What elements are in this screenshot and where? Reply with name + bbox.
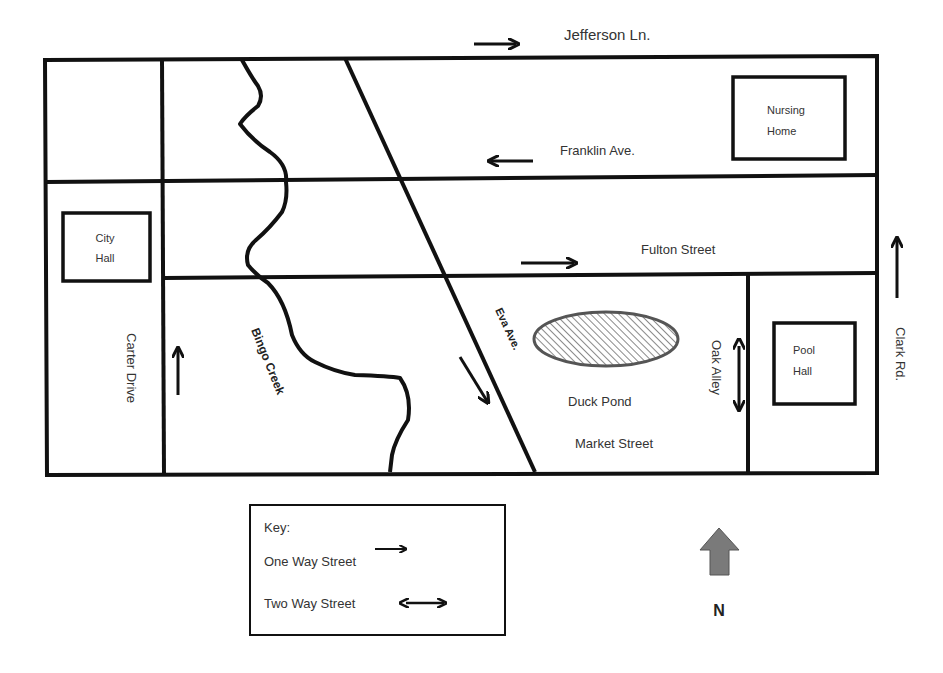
nursing-home-label-1: Nursing: [767, 104, 805, 116]
fulton-street-label: Fulton Street: [641, 242, 716, 257]
nursing-home-label-2: Home: [767, 125, 796, 137]
pool-hall-label-2: Hall: [793, 365, 812, 377]
fulton-street-line: [164, 273, 877, 278]
bingo-creek: [240, 60, 409, 472]
eva-arrow-southeast: [460, 357, 487, 401]
franklin-ave-line: [46, 175, 877, 182]
key-one-way-label: One Way Street: [264, 554, 356, 569]
key-two-way-label: Two Way Street: [264, 596, 356, 611]
city-hall-label-2: Hall: [96, 252, 115, 264]
duck-pond-label: Duck Pond: [568, 394, 632, 409]
city-hall-building: [63, 213, 150, 281]
clark-rd-label: Clark Rd.: [893, 327, 908, 381]
pool-hall-label-1: Pool: [793, 344, 815, 356]
bingo-creek-label: Bingo Creek: [248, 326, 288, 397]
market-street-label: Market Street: [575, 436, 653, 451]
city-hall-label-1: City: [96, 232, 115, 244]
duck-pond: [534, 312, 678, 366]
jefferson-ln-label: Jefferson Ln.: [564, 26, 650, 43]
eva-ave-line: [345, 58, 535, 472]
town-map: City Hall Nursing Home Pool Hall Duck Po…: [0, 0, 943, 673]
carter-drive-line: [162, 59, 164, 474]
nursing-home-building: [733, 77, 845, 159]
north-arrow-icon: [700, 528, 739, 575]
key-title: Key:: [264, 520, 290, 535]
pool-hall-building: [774, 323, 855, 404]
franklin-ave-label: Franklin Ave.: [560, 143, 635, 158]
oak-alley-label: Oak Alley: [709, 340, 724, 395]
north-label: N: [713, 602, 725, 619]
eva-ave-label: Eva Ave.: [493, 306, 523, 352]
carter-drive-label: Carter Drive: [124, 333, 139, 403]
